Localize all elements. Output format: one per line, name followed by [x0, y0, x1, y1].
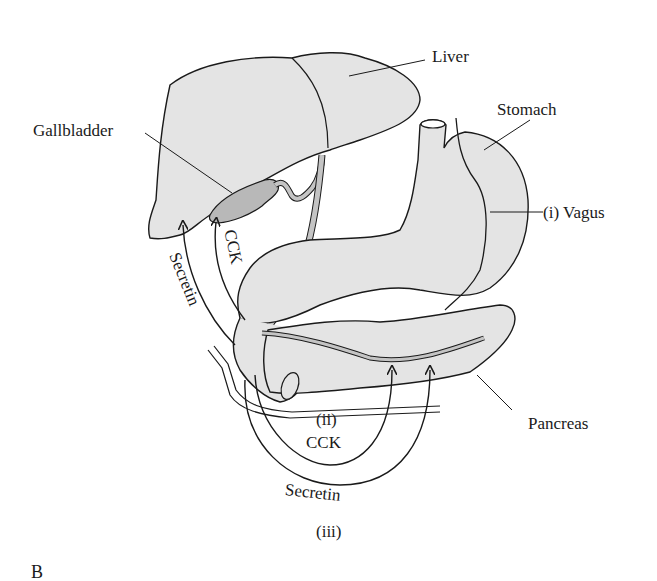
- label-liver: Liver: [432, 48, 469, 65]
- label-vagus: (i) Vagus: [543, 204, 605, 221]
- label-pancreas: Pancreas: [528, 415, 588, 432]
- label-cck-bottom: CCK: [306, 434, 341, 451]
- pancreas-shape: [264, 305, 515, 393]
- panel-label: B: [31, 563, 43, 581]
- label-stomach: Stomach: [497, 101, 557, 118]
- liver-shape: [149, 53, 420, 239]
- label-ii: (ii): [316, 411, 337, 428]
- label-iii: (iii): [316, 523, 342, 540]
- label-gallbladder: Gallbladder: [33, 122, 113, 139]
